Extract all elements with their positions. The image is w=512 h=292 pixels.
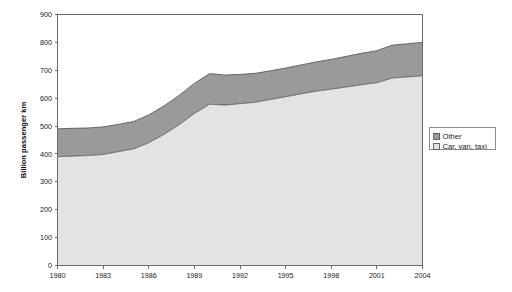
x-tick-label: 1980 xyxy=(50,271,66,280)
x-tick-label: 1989 xyxy=(186,271,202,280)
y-axis-title-label: Billion passenger km xyxy=(19,102,28,179)
y-tick-label: 700 xyxy=(40,66,52,75)
chart-container: 0100200300400500600700800900 19801983198… xyxy=(0,0,512,292)
x-axis-ticks: 198019831986198919921995199820012004 xyxy=(50,266,431,280)
legend-label: Other xyxy=(443,132,462,141)
y-axis-ticks: 0100200300400500600700800900 xyxy=(40,10,58,270)
x-tick-label: 1998 xyxy=(323,271,339,280)
x-tick-label: 2001 xyxy=(369,271,385,280)
legend-swatch xyxy=(434,133,440,139)
stacked-area-series xyxy=(58,42,423,265)
x-tick-label: 1983 xyxy=(95,271,111,280)
area-series-car-van-taxi xyxy=(58,76,423,266)
y-tick-label: 200 xyxy=(40,205,52,214)
y-axis-title: Billion passenger km xyxy=(19,102,28,179)
legend-label: Car, van, taxi xyxy=(443,142,488,151)
y-tick-label: 800 xyxy=(40,38,52,47)
y-tick-label: 400 xyxy=(40,150,52,159)
y-tick-label: 100 xyxy=(40,233,52,242)
y-tick-label: 600 xyxy=(40,94,52,103)
y-tick-label: 0 xyxy=(48,261,52,270)
x-tick-label: 1995 xyxy=(278,271,294,280)
area-chart: 0100200300400500600700800900 19801983198… xyxy=(0,0,512,292)
y-tick-label: 300 xyxy=(40,177,52,186)
chart-legend: OtherCar, van, taxi xyxy=(430,128,496,151)
x-tick-label: 1986 xyxy=(141,271,157,280)
y-tick-label: 500 xyxy=(40,122,52,131)
x-tick-label: 1992 xyxy=(232,271,248,280)
y-tick-label: 900 xyxy=(40,10,52,19)
legend-swatch xyxy=(434,143,440,149)
x-tick-label: 2004 xyxy=(415,271,431,280)
